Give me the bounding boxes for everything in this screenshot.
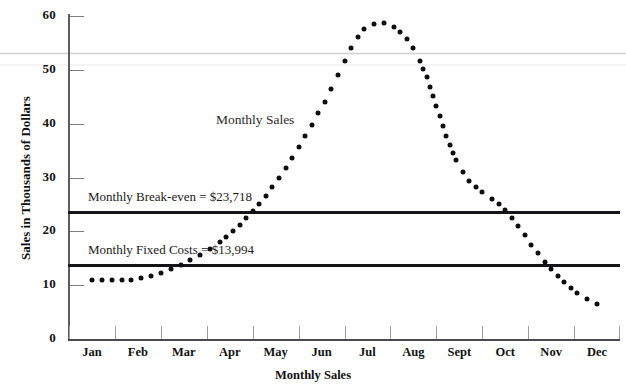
data-point-marker <box>381 20 386 25</box>
x-tick-label: Feb <box>128 345 148 360</box>
data-point-marker <box>224 234 229 239</box>
data-point-marker <box>257 201 262 206</box>
data-point-marker <box>237 222 242 227</box>
y-tick-mark <box>70 70 84 71</box>
data-point-marker <box>316 111 321 116</box>
x-tick-label: Aug <box>402 345 424 360</box>
reference-line-label-fixed-costs: Monthly Fixed Costs = $13,994 <box>88 242 254 258</box>
x-tick-label: Jul <box>359 345 376 360</box>
data-point-marker <box>283 166 288 171</box>
x-tick-label: Jun <box>311 345 331 360</box>
x-tick-mark <box>390 326 391 339</box>
data-point-marker <box>509 215 514 220</box>
data-point-marker <box>447 142 452 147</box>
data-point-marker <box>417 58 422 63</box>
data-point-marker <box>276 176 281 181</box>
data-point-marker <box>129 277 134 282</box>
x-tick-label: Dec <box>587 345 607 360</box>
x-tick-label: Apr <box>219 345 241 360</box>
data-point-marker <box>522 233 527 238</box>
x-tick-mark <box>161 326 162 339</box>
x-axis-title: Monthly Sales <box>0 368 626 383</box>
data-point-marker <box>496 201 501 206</box>
y-tick-label: 0 <box>22 330 56 346</box>
data-point-marker <box>595 302 600 307</box>
data-point-marker <box>372 21 377 26</box>
data-point-marker <box>460 170 465 175</box>
data-point-marker <box>329 86 334 91</box>
data-point-marker <box>431 94 436 99</box>
data-point-marker <box>90 277 95 282</box>
series-label: Monthly Sales <box>216 112 294 128</box>
x-tick-label: Sept <box>447 345 471 360</box>
data-point-marker <box>231 229 236 234</box>
x-tick-label: Oct <box>495 345 514 360</box>
y-axis-title: Sales in Thousands of Dollars <box>18 68 34 288</box>
x-tick-mark <box>207 326 208 339</box>
data-point-marker <box>355 35 360 40</box>
data-point-marker <box>296 145 301 150</box>
data-point-marker <box>404 37 409 42</box>
data-point-marker <box>440 124 445 129</box>
data-point-marker <box>427 84 432 89</box>
y-tick-mark <box>70 231 84 232</box>
data-point-marker <box>575 290 580 295</box>
data-point-marker <box>335 72 340 77</box>
x-tick-mark <box>69 326 70 339</box>
data-point-marker <box>473 185 478 190</box>
data-point-marker <box>467 178 472 183</box>
x-axis-line <box>68 339 620 341</box>
data-point-marker <box>270 185 275 190</box>
x-tick-mark <box>115 326 116 339</box>
data-point-marker <box>158 271 163 276</box>
data-point-marker <box>585 297 590 302</box>
data-point-marker <box>309 122 314 127</box>
data-point-marker <box>263 193 268 198</box>
data-point-marker <box>536 251 541 256</box>
x-tick-label: Mar <box>172 345 196 360</box>
x-tick-mark <box>528 326 529 339</box>
reference-line-break-even <box>68 211 620 214</box>
data-point-marker <box>303 133 308 138</box>
chart-root: 0102030405060 JanFebMarAprMayJunJulAugSe… <box>0 0 626 387</box>
data-point-marker <box>188 258 193 263</box>
reference-line-fixed-costs <box>68 264 620 267</box>
data-point-marker <box>450 150 455 155</box>
x-tick-label: Nov <box>540 345 562 360</box>
data-point-marker <box>549 267 554 272</box>
data-point-marker <box>119 278 124 283</box>
y-tick-mark <box>70 16 84 17</box>
scan-artifact-band-secondary <box>0 64 626 66</box>
data-point-marker <box>562 279 567 284</box>
data-point-marker <box>516 224 521 229</box>
x-tick-mark <box>619 326 620 339</box>
data-point-marker <box>149 273 154 278</box>
scan-artifact-band <box>0 52 626 55</box>
x-tick-label: Jan <box>82 345 101 360</box>
x-tick-mark <box>299 326 300 339</box>
x-tick-mark <box>345 326 346 339</box>
x-tick-mark <box>574 326 575 339</box>
x-tick-mark <box>482 326 483 339</box>
data-point-marker <box>555 273 560 278</box>
data-point-marker <box>421 66 426 71</box>
y-tick-mark <box>70 285 84 286</box>
data-point-marker <box>139 276 144 281</box>
data-point-marker <box>568 285 573 290</box>
data-point-marker <box>437 114 442 119</box>
data-point-marker <box>454 158 459 163</box>
data-point-marker <box>444 133 449 138</box>
data-point-marker <box>109 278 114 283</box>
data-point-marker <box>168 267 173 272</box>
data-point-marker <box>490 196 495 201</box>
y-tick-mark <box>70 124 84 125</box>
data-point-marker <box>398 30 403 35</box>
x-tick-label: May <box>263 345 287 360</box>
y-tick-mark <box>70 178 84 179</box>
x-tick-mark <box>253 326 254 339</box>
data-point-marker <box>529 242 534 247</box>
data-point-marker <box>322 99 327 104</box>
data-point-marker <box>391 24 396 29</box>
y-tick-label: 60 <box>22 7 56 23</box>
data-point-marker <box>99 277 104 282</box>
